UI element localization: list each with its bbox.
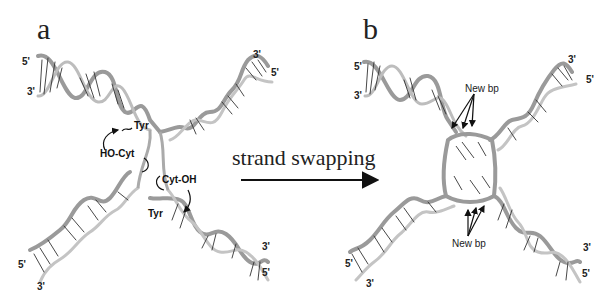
- end-label-a-bottom-right-3: 3': [262, 242, 270, 252]
- dna-arm-top-right-b: [490, 63, 576, 150]
- end-label-a-top-right-3: 3': [253, 50, 261, 60]
- end-label-a-top-right-5: 5': [271, 68, 279, 78]
- panel-label-a: a: [37, 14, 50, 44]
- tyr-label-top: Tyr: [134, 121, 149, 131]
- junction-center-b: [444, 134, 495, 202]
- dna-arm-top-right: [160, 56, 272, 140]
- end-label-a-bottom-left-3: 3': [37, 282, 45, 292]
- end-label-a-bottom-left-5: 5': [18, 260, 26, 270]
- end-label-b-top-left-5: 5': [354, 62, 362, 72]
- dna-arm-bottom-left: [30, 172, 138, 282]
- end-label-a-bottom-right-5: 5': [262, 268, 270, 278]
- end-label-b-top-right-5: 5': [586, 75, 594, 85]
- dna-arm-bottom-left-b: [350, 196, 454, 280]
- end-label-b-top-left-3: 3': [354, 91, 362, 101]
- end-label-a-top-left-5: 5': [22, 57, 30, 67]
- end-label-b-bottom-left-3: 3': [366, 279, 374, 289]
- end-label-b-bottom-left-5: 5': [345, 259, 353, 269]
- end-label-a-top-left-3: 3': [27, 87, 35, 97]
- new-bp-arrows-top: [452, 94, 474, 128]
- tyr-label-bottom: Tyr: [148, 209, 163, 219]
- cyt-oh-label: Cyt-OH: [162, 175, 196, 185]
- ho-cyt-label: HO-Cyt: [100, 149, 134, 159]
- end-label-b-top-right-3: 3': [568, 55, 576, 65]
- new-bp-label-top: New bp: [465, 84, 499, 94]
- dna-arm-bottom-right: [150, 190, 268, 280]
- dna-arm-bottom-right-b: [494, 188, 580, 282]
- panel-label-b: b: [363, 14, 378, 44]
- new-bp-label-bottom: New bp: [452, 239, 486, 249]
- strand-swapping-label: strand swapping: [232, 147, 376, 169]
- new-bp-arrows-bottom: [468, 206, 484, 236]
- end-label-b-bottom-right-5: 5': [582, 269, 590, 279]
- dna-arm-top-left-b: [364, 62, 466, 136]
- end-label-b-bottom-right-3: 3': [583, 243, 591, 253]
